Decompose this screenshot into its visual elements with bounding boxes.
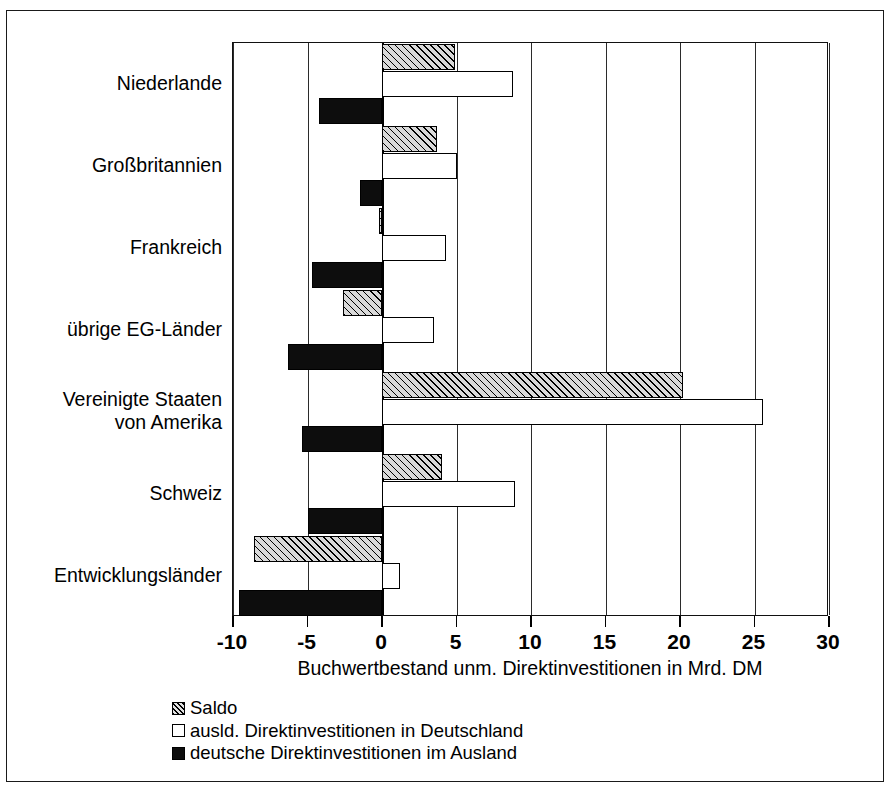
bar-group [233,43,827,125]
bar-saldo [382,44,455,70]
legend-swatch-black [172,747,185,760]
category-axis-labels: NiederlandeGroßbritannienFrankreichübrig… [10,42,222,616]
bar-group [233,453,827,535]
bar-inward [382,235,446,261]
bar-saldo [379,208,382,234]
x-tick [381,616,383,627]
x-tick-label: 15 [593,630,616,654]
x-tick-label: 5 [450,630,462,654]
category-label: Entwicklungsländer [54,564,222,587]
bar-saldo [382,126,437,152]
legend-label: Saldo [190,697,237,720]
bar-saldo [254,536,382,562]
gridline-30 [829,43,830,615]
legend-label: deutsche Direktinvestitionen im Ausland [190,742,517,765]
bar-outward [288,344,382,370]
legend-label: ausld. Direktinvestitionen in Deutschlan… [190,720,523,743]
category-label: Vereinigte Staaten von Amerika [63,388,222,434]
legend-item: ausld. Direktinvestitionen in Deutschlan… [172,720,523,743]
x-tick-label: 25 [742,630,765,654]
bar-group [233,535,827,617]
x-tick-label: 30 [816,630,839,654]
bar-outward [308,508,383,534]
x-tick-label: 10 [518,630,541,654]
bar-inward [382,153,457,179]
bar-outward [239,590,382,616]
x-tick [307,616,309,627]
category-label: Frankreich [130,236,222,259]
bar-saldo [382,372,683,398]
x-tick [679,616,681,627]
bar-inward [382,481,515,507]
bar-inward [382,399,763,425]
x-tick [456,616,458,627]
bar-outward [312,262,382,288]
bar-inward [382,71,513,97]
bar-outward [360,180,382,206]
x-tick-label: -10 [217,630,247,654]
bar-outward [319,98,382,124]
plot-area [232,42,828,616]
x-tick [828,616,830,627]
bar-saldo [343,290,382,316]
figure-container: NiederlandeGroßbritannienFrankreichübrig… [0,0,896,812]
bar-saldo [382,454,442,480]
bar-group [233,371,827,453]
bar-group [233,125,827,207]
bar-group [233,207,827,289]
category-label: Schweiz [149,482,222,505]
legend-item: Saldo [172,697,523,720]
bar-group [233,289,827,371]
legend-swatch-white [172,724,185,737]
x-tick [232,616,234,627]
x-tick-label: 0 [375,630,387,654]
category-label: übrige EG-Länder [67,318,222,341]
category-label: Niederlande [117,72,222,95]
legend-swatch-hatched [172,702,185,715]
x-tick [754,616,756,627]
bar-inward [382,317,434,343]
x-axis-title: Buchwertbestand unm. Direktinvestitionen… [232,657,828,680]
bar-inward [382,563,400,589]
x-tick [530,616,532,627]
x-tick-label: -5 [297,630,316,654]
x-tick [605,616,607,627]
chart-legend: Saldoausld. Direktinvestitionen in Deuts… [172,697,523,765]
x-tick-label: 20 [667,630,690,654]
legend-item: deutsche Direktinvestitionen im Ausland [172,742,523,765]
category-label: Großbritannien [92,154,222,177]
bar-outward [302,426,382,452]
